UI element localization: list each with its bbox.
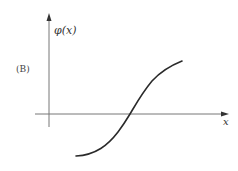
y-axis-arrow-icon	[47, 13, 52, 21]
function-diagram: (B) φ(x) x	[0, 0, 238, 171]
phi-curve	[76, 61, 182, 156]
y-axis	[47, 13, 52, 127]
panel-label: (B)	[16, 64, 30, 74]
x-axis	[35, 112, 229, 117]
y-axis-label: φ(x)	[54, 24, 77, 37]
x-axis-label: x	[223, 116, 229, 127]
